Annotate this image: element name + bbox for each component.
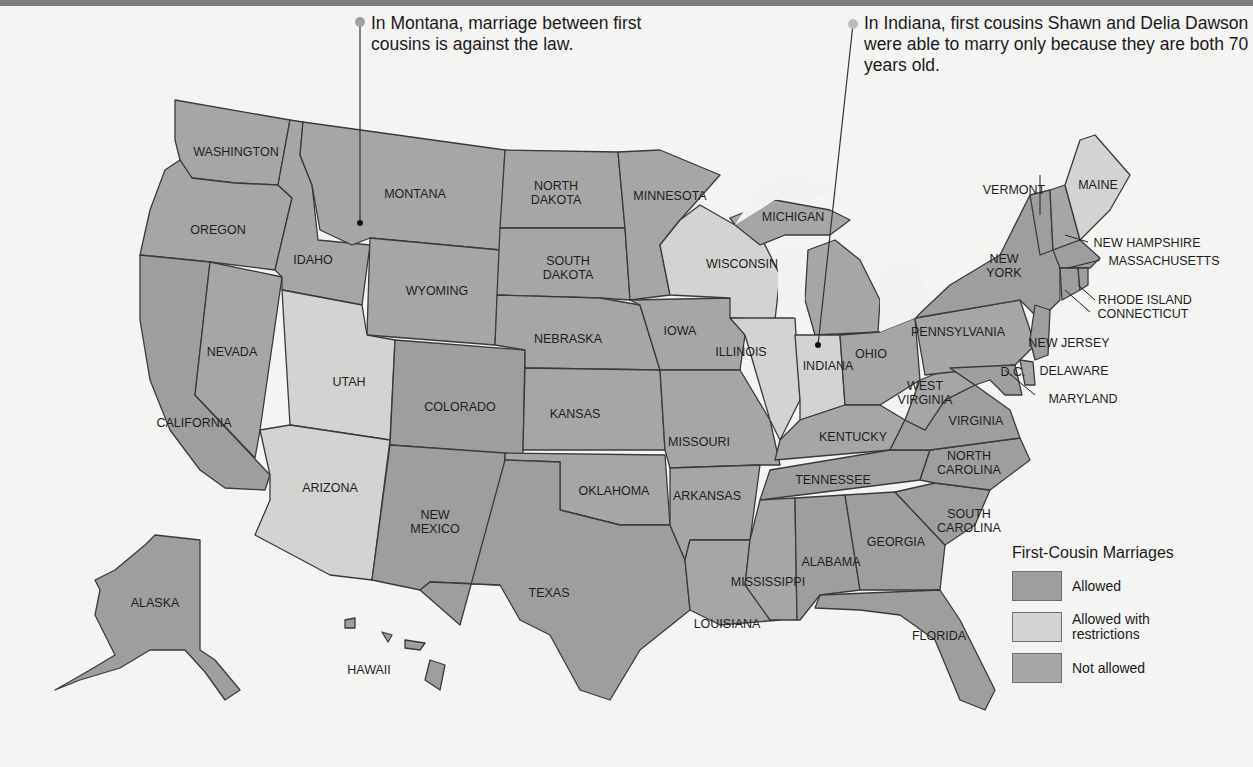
legend-label-restricted: Allowed with restrictions	[1072, 612, 1182, 642]
label-new-york-2: YORK	[986, 266, 1022, 280]
legend-label-not-allowed: Not allowed	[1072, 661, 1182, 676]
states-layer	[55, 100, 1130, 710]
callout-montana: In Montana, marriage between first cousi…	[371, 13, 671, 55]
state-michigan-lp	[805, 240, 880, 335]
label-kansas: KANSAS	[550, 407, 601, 421]
label-connecticut: CONNECTICUT	[1098, 307, 1189, 321]
label-michigan: MICHIGAN	[762, 210, 825, 224]
label-maine: MAINE	[1078, 178, 1118, 192]
state-florida	[815, 590, 995, 710]
legend-swatch-allowed	[1012, 571, 1062, 601]
label-utah: UTAH	[332, 375, 365, 389]
label-idaho: IDAHO	[293, 253, 333, 267]
map-legend: First-Cousin Marriages Allowed Allowed w…	[1012, 544, 1252, 690]
label-oregon: OREGON	[190, 223, 246, 237]
label-wisconsin: WISCONSIN	[706, 257, 778, 271]
label-indiana: INDIANA	[803, 359, 854, 373]
label-north-dakota-2: DAKOTA	[531, 193, 582, 207]
label-illinois: ILLINOIS	[715, 345, 766, 359]
indiana-leader-end-dot	[815, 342, 821, 348]
state-montana	[300, 122, 505, 250]
label-maryland: MARYLAND	[1048, 392, 1117, 406]
state-washington	[175, 100, 290, 185]
legend-item-allowed-with-restrictions: Allowed with restrictions	[1012, 608, 1252, 646]
label-tennessee: TENNESSEE	[795, 473, 871, 487]
label-new-york-1: NEW	[989, 252, 1018, 266]
label-south-carolina-2: CAROLINA	[937, 521, 1002, 535]
label-mississippi: MISSISSIPPI	[731, 575, 805, 589]
label-north-carolina-1: NORTH	[947, 449, 991, 463]
label-delaware: DELAWARE	[1039, 364, 1108, 378]
label-north-dakota-1: NORTH	[534, 179, 578, 193]
label-montana: MONTANA	[384, 187, 446, 201]
label-alabama: ALABAMA	[801, 555, 861, 569]
label-missouri: MISSOURI	[668, 435, 730, 449]
label-arizona: ARIZONA	[302, 481, 358, 495]
state-hawaii	[345, 618, 445, 690]
label-pennsylvania: PENNSYLVANIA	[911, 325, 1006, 339]
legend-swatch-restricted	[1012, 612, 1062, 642]
state-colorado	[390, 340, 525, 455]
label-hawaii: HAWAII	[347, 663, 391, 677]
label-south-dakota-1: SOUTH	[546, 254, 590, 268]
label-kentucky: KENTUCKY	[819, 430, 888, 444]
label-alaska: ALASKA	[131, 596, 180, 610]
label-georgia: GEORGIA	[867, 535, 926, 549]
label-florida: FLORIDA	[912, 629, 967, 643]
label-new-hampshire: NEW HAMPSHIRE	[1094, 236, 1201, 250]
legend-item-allowed: Allowed	[1012, 567, 1252, 605]
label-california: CALIFORNIA	[156, 416, 232, 430]
label-louisiana: LOUISIANA	[694, 617, 761, 631]
label-north-carolina-2: CAROLINA	[937, 463, 1002, 477]
legend-label-allowed: Allowed	[1072, 579, 1182, 594]
label-massachusetts: MASSACHUSETTS	[1108, 254, 1219, 268]
label-south-dakota-2: DAKOTA	[543, 268, 594, 282]
label-oklahoma: OKLAHOMA	[579, 484, 651, 498]
label-new-jersey: NEW JERSEY	[1028, 336, 1110, 350]
legend-item-not-allowed: Not allowed	[1012, 649, 1252, 687]
label-nevada: NEVADA	[207, 345, 258, 359]
label-wyoming: WYOMING	[406, 284, 469, 298]
label-new-mexico-1: NEW	[420, 508, 449, 522]
label-rhode-island: RHODE ISLAND	[1098, 293, 1192, 307]
label-colorado: COLORADO	[424, 400, 496, 414]
label-south-carolina-1: SOUTH	[947, 507, 991, 521]
label-iowa: IOWA	[664, 324, 698, 338]
label-virginia: VIRGINIA	[949, 414, 1005, 428]
label-west-virginia-2: VIRGINIA	[898, 393, 954, 407]
label-new-mexico-2: MEXICO	[410, 522, 460, 536]
indiana-leader-top-dot	[848, 19, 858, 29]
label-washington: WASHINGTON	[193, 145, 278, 159]
label-west-virginia-1: WEST	[907, 379, 943, 393]
state-arizona	[255, 425, 390, 580]
label-ohio: OHIO	[855, 347, 887, 361]
state-connecticut	[1060, 268, 1080, 300]
label-arkansas: ARKANSAS	[673, 489, 741, 503]
montana-leader-end-dot	[357, 220, 363, 226]
montana-leader-top-dot	[355, 17, 365, 27]
legend-swatch-not-allowed	[1012, 653, 1062, 683]
callout-indiana: In Indiana, first cousins Shawn and Deli…	[864, 13, 1249, 76]
state-alaska	[55, 535, 240, 700]
label-texas: TEXAS	[529, 586, 570, 600]
label-dc: D.C.	[1001, 365, 1026, 379]
label-vermont: VERMONT	[983, 183, 1046, 197]
label-minnesota: MINNESOTA	[633, 189, 707, 203]
legend-title: First-Cousin Marriages	[1012, 544, 1252, 562]
label-nebraska: NEBRASKA	[534, 332, 603, 346]
